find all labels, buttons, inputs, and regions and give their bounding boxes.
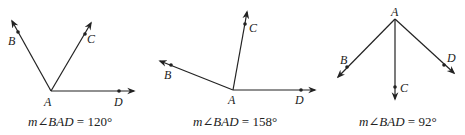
figure-1: B C A D m∠BAD = 120°	[8, 21, 134, 129]
label-b: B	[8, 34, 16, 48]
angle-caption: m∠BAD = 120°	[28, 114, 112, 129]
angle-diagrams: B C A D m∠BAD = 120° B C A D m∠BAD = 158…	[0, 0, 465, 135]
figure-3: B C A D m∠BAD = 92°	[338, 5, 456, 129]
point-c	[243, 22, 247, 26]
label-c: C	[400, 81, 409, 95]
label-c: C	[249, 21, 258, 35]
angle-caption: m∠BAD = 158°	[193, 114, 277, 129]
point-d	[299, 88, 303, 92]
point-d	[442, 63, 446, 67]
point-b	[16, 30, 20, 34]
label-b: B	[340, 53, 348, 67]
angle-caption: m∠BAD = 92°	[359, 114, 437, 129]
label-a: A	[390, 5, 399, 19]
point-b	[169, 63, 173, 67]
label-d: D	[294, 93, 304, 107]
label-b: B	[164, 68, 172, 82]
label-d: D	[446, 51, 456, 65]
label-a: A	[43, 95, 52, 109]
point-d	[117, 89, 121, 93]
point-c	[393, 85, 397, 89]
label-a: A	[227, 93, 236, 107]
label-d: D	[113, 95, 123, 109]
label-c: C	[87, 32, 96, 46]
figure-2: B C A D m∠BAD = 158°	[160, 12, 315, 129]
